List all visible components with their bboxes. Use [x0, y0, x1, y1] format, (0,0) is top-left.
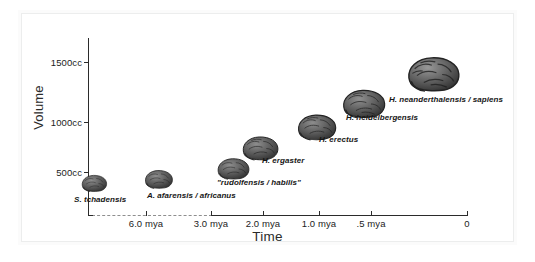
figure-root: 1500cc 1000cc 500cc 6.0 mya 3.0 mya 2.0 … — [0, 0, 535, 262]
species-label-h-heidelbergensis: H. heidelbergensis — [346, 113, 418, 122]
plot-area: 1500cc 1000cc 500cc 6.0 mya 3.0 mya 2.0 … — [0, 0, 535, 262]
x-tick-zero — [467, 211, 468, 216]
data-point-h-neanderthalensis-sapiens — [404, 55, 462, 94]
data-point-s-tchadensis — [80, 174, 108, 193]
species-label-h-ergaster: H. ergaster — [262, 156, 304, 165]
y-tick-1500 — [84, 62, 89, 63]
x-tick-halfmya — [371, 211, 372, 216]
data-point-a-afarensis-africanus — [143, 169, 174, 190]
y-tick-label-1500: 1500cc — [51, 57, 82, 68]
species-label-h-neanderthalensis-sapiens: H. neanderthalensis / sapiens — [389, 95, 503, 104]
x-tick-label-1mya: 1.0 mya — [302, 218, 337, 229]
x-axis-line-dashed-segment — [92, 215, 212, 216]
species-label-a-afarensis-africanus: A. afarensis / africanus — [147, 191, 236, 200]
y-tick-label-1000: 1000cc — [51, 117, 82, 128]
y-tick-label-500: 500cc — [56, 167, 82, 178]
x-axis-line-solid-segment — [212, 215, 468, 216]
x-axis-title: Time — [0, 229, 535, 244]
species-label-h-erectus: H. erectus — [319, 135, 358, 144]
brain-icon — [80, 174, 108, 193]
x-tick-2mya — [263, 211, 264, 216]
x-tick-label-halfmya: .5 mya — [356, 218, 385, 229]
x-tick-label-2mya: 2.0 mya — [246, 218, 281, 229]
x-tick-1mya — [319, 211, 320, 216]
x-tick-label-6mya: 6.0 mya — [129, 218, 164, 229]
species-label-s-tchadensis: S. tchadensis — [74, 195, 126, 204]
y-axis-title: Volume — [31, 68, 46, 148]
x-tick-label-zero: 0 — [464, 218, 469, 229]
x-tick-3mya — [211, 211, 212, 216]
brain-icon — [143, 169, 174, 190]
x-tick-label-3mya: 3.0 mya — [194, 218, 229, 229]
y-tick-500 — [84, 172, 89, 173]
y-tick-1000 — [84, 122, 89, 123]
species-label-rudolfensis-habilis: "rudolfensis / habilis" — [217, 178, 301, 187]
brain-icon — [404, 55, 462, 94]
x-tick-6mya — [146, 211, 147, 216]
x-axis-line-origin-stub — [88, 215, 93, 216]
